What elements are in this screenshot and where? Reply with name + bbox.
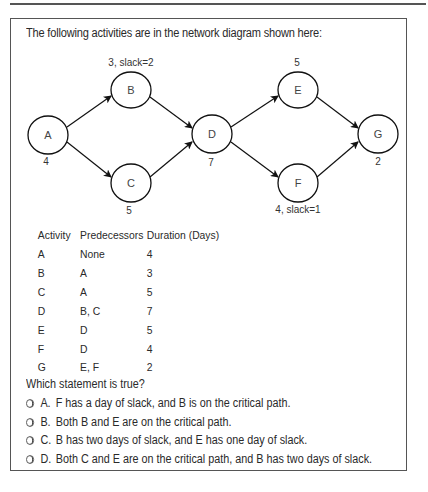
row-c-predecessors: A bbox=[80, 286, 87, 298]
row-g-predecessors: E, F bbox=[80, 361, 99, 373]
row-c-activity: C bbox=[38, 286, 45, 298]
row-d-activity: D bbox=[38, 305, 45, 317]
option-d-letter: D. bbox=[40, 452, 55, 466]
radio-icon[interactable] bbox=[26, 455, 34, 464]
row-c-duration: 5 bbox=[147, 286, 153, 298]
header-activity: Activity bbox=[38, 229, 71, 241]
row-f-duration: 4 bbox=[147, 343, 153, 355]
option-c[interactable]: C. B has two days of slack, and E has on… bbox=[26, 433, 307, 447]
row-e-duration: 5 bbox=[147, 324, 153, 336]
option-a[interactable]: A. F has a day of slack, and B is on the… bbox=[26, 396, 290, 410]
option-d-text: Both C and E are on the critical path, a… bbox=[56, 452, 372, 466]
option-a-letter: A. bbox=[40, 396, 55, 410]
header-duration: Duration (Days) bbox=[147, 229, 219, 241]
row-e-predecessors: D bbox=[80, 324, 87, 336]
row-d-predecessors: B, C bbox=[80, 305, 100, 317]
row-a-predecessors: None bbox=[80, 248, 105, 260]
row-b-predecessors: A bbox=[80, 267, 87, 279]
row-a-duration: 4 bbox=[147, 248, 153, 260]
radio-icon[interactable] bbox=[26, 418, 34, 427]
option-c-text: B has two days of slack, and E has one d… bbox=[56, 433, 308, 447]
row-b-activity: B bbox=[38, 267, 45, 279]
row-g-activity: G bbox=[38, 361, 46, 373]
option-d[interactable]: D. Both C and E are on the critical path… bbox=[26, 452, 372, 466]
row-a-activity: A bbox=[38, 248, 45, 260]
row-b-duration: 3 bbox=[147, 267, 153, 279]
radio-icon[interactable] bbox=[26, 436, 34, 445]
header-predecessors: Predecessors bbox=[80, 229, 143, 241]
option-b-text: Both B and E are on the critical path. bbox=[56, 415, 232, 429]
row-d-duration: 7 bbox=[147, 305, 153, 317]
row-e-activity: E bbox=[38, 324, 45, 336]
option-c-letter: C. bbox=[40, 433, 55, 447]
row-f-activity: F bbox=[38, 343, 44, 355]
option-b-letter: B. bbox=[40, 415, 55, 429]
row-g-duration: 2 bbox=[147, 361, 153, 373]
radio-icon[interactable] bbox=[26, 399, 34, 408]
row-f-predecessors: D bbox=[80, 343, 87, 355]
option-b[interactable]: B. Both B and E are on the critical path… bbox=[26, 415, 232, 429]
question-prompt: Which statement is true? bbox=[26, 377, 145, 391]
option-a-text: F has a day of slack, and B is on the cr… bbox=[56, 396, 291, 410]
